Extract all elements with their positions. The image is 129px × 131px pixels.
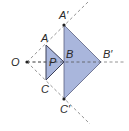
label-p: P [49,56,57,68]
label-c: C [41,83,49,95]
label-c-prime: C′ [60,103,71,115]
label-b: B [66,48,73,60]
label-a-prime: A′ [58,9,69,21]
point-c-prime [62,97,65,100]
diagram-canvas: O A B C P A′ B′ C′ [0,0,129,131]
point-o [25,60,28,63]
point-a-prime [62,23,65,26]
label-b-prime: B′ [103,48,113,60]
label-o: O [11,56,20,68]
enlargement-diagram: O A B C P A′ B′ C′ [0,0,129,131]
label-a: A [40,32,48,44]
